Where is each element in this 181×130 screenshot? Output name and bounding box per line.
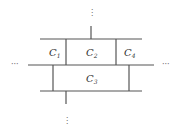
bottom-ellipsis: ⋮ xyxy=(63,116,71,125)
svg-text:C1: C1 xyxy=(49,47,60,59)
svg-text:C2: C2 xyxy=(86,47,98,59)
cell-adjacency-diagram: ⋮ ⋮ ··· ··· C1 C2 C4 C3 xyxy=(0,0,181,130)
svg-text:C4: C4 xyxy=(124,47,136,59)
cell-label-c3: C3 xyxy=(86,73,98,85)
left-ellipsis: ··· xyxy=(11,60,19,69)
right-ellipsis: ··· xyxy=(162,60,170,69)
cell-label-c4: C4 xyxy=(124,47,136,59)
top-ellipsis: ⋮ xyxy=(88,8,96,17)
cell-label-c1: C1 xyxy=(49,47,60,59)
cell-label-c2: C2 xyxy=(86,47,98,59)
svg-text:C3: C3 xyxy=(86,73,98,85)
